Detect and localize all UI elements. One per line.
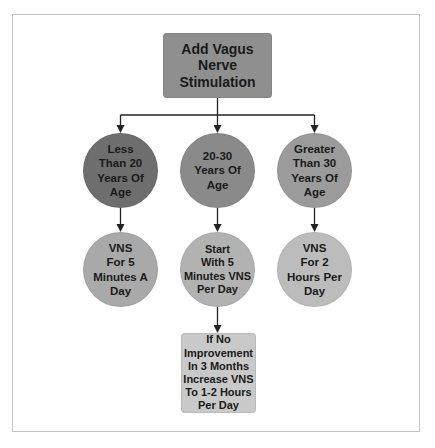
condition-label: Less Than 20 Years Of Age <box>94 142 147 198</box>
condition-label: Greater Than 30 Years Of Age <box>288 142 341 198</box>
action-label: VNS For 2 Hours Per Day <box>284 241 345 297</box>
action-label: VNS For 5 Minutes A Day <box>90 241 151 297</box>
action-node-5-min: VNS For 5 Minutes A Day <box>83 232 158 307</box>
root-node-add-vns: Add Vagus Nerve Stimulation <box>163 33 272 98</box>
condition-label: 20-30 Years Of Age <box>191 149 244 191</box>
followup-node-increase-vns: If No Improvement In 3 Months Increase V… <box>181 333 256 413</box>
action-node-start-5-min: Start With 5 Minutes VNS Per Day <box>180 232 255 307</box>
condition-node-under-20: Less Than 20 Years Of Age <box>83 133 158 208</box>
followup-label: If No Improvement In 3 Months Increase V… <box>183 333 253 412</box>
condition-node-over-30: Greater Than 30 Years Of Age <box>277 133 352 208</box>
action-node-2-hours: VNS For 2 Hours Per Day <box>277 232 352 307</box>
action-label: Start With 5 Minutes VNS Per Day <box>184 243 251 297</box>
root-node-label: Add Vagus Nerve Stimulation <box>176 41 258 91</box>
condition-node-20-30: 20-30 Years Of Age <box>180 133 255 208</box>
